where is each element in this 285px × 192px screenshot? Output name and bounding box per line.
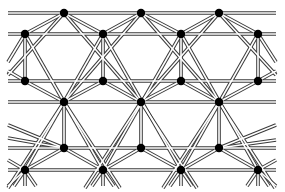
joint-node <box>99 77 107 85</box>
joint-node <box>177 166 185 174</box>
joint-node <box>177 77 185 85</box>
joint-node <box>215 9 223 17</box>
joint-node <box>254 77 262 85</box>
joint-node <box>60 144 68 152</box>
diagonal-bar <box>219 13 258 34</box>
joint-node <box>254 30 262 38</box>
joint-node <box>137 98 145 106</box>
joint-node <box>177 30 185 38</box>
joint-node <box>60 9 68 17</box>
diagonal-bar <box>8 13 64 75</box>
diagonal-bar <box>163 102 219 188</box>
diagonal-bar <box>25 13 64 34</box>
joint-node <box>21 30 29 38</box>
diagonal-bar <box>64 13 103 34</box>
joint-node <box>215 98 223 106</box>
diagonal-bar <box>103 13 141 34</box>
diagonal-bar <box>141 102 197 188</box>
joint-node <box>254 166 262 174</box>
joint-node <box>137 144 145 152</box>
lattice-diagram <box>0 0 285 192</box>
joint-node <box>137 9 145 17</box>
joint-node <box>215 144 223 152</box>
joint-node <box>99 30 107 38</box>
diagonal-bar <box>181 13 219 34</box>
diagonal-bar <box>219 13 276 75</box>
joint-node <box>60 98 68 106</box>
joint-node <box>21 166 29 174</box>
lattice-svg <box>0 0 285 192</box>
joint-node <box>21 77 29 85</box>
diagonal-bar <box>141 13 181 34</box>
joint-node <box>99 166 107 174</box>
